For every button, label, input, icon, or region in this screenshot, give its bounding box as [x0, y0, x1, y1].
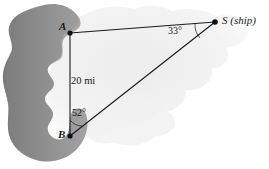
vertex-dot-b: [67, 133, 72, 138]
angle-label-ship: 33°: [168, 26, 182, 36]
vertex-dot-a: [67, 30, 72, 35]
angle-label-b: 52°: [72, 108, 86, 118]
vertex-dot-s: [212, 19, 218, 25]
vertex-label-b: B: [58, 129, 65, 140]
figure-canvas: A B S (ship) 33° 52° 20 mi: [0, 0, 269, 169]
vertex-label-ship: S (ship): [222, 15, 256, 26]
distance-label-ab: 20 mi: [71, 76, 95, 87]
vertex-label-a: A: [59, 21, 66, 32]
